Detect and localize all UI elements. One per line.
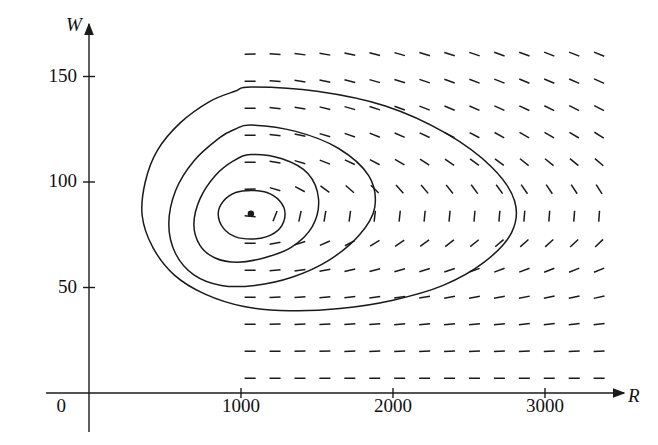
x-axis-label: R [628,385,640,407]
field-dash [444,52,454,55]
field-dash [345,133,355,137]
field-dash [571,185,577,194]
field-dash [295,161,306,164]
field-dash [569,132,578,138]
field-dash [469,79,479,83]
field-dash [270,242,281,244]
field-dash [444,79,454,83]
direction-field [245,52,605,378]
field-dash [444,351,455,352]
field-dash [320,269,331,271]
field-dash [370,160,380,165]
field-dash [295,269,306,271]
plot-canvas [0,0,658,445]
field-dash [395,159,404,165]
field-dash [345,107,356,110]
field-dash [320,160,330,164]
field-dash [369,53,380,56]
field-dash [469,106,479,110]
field-dash [595,239,603,247]
field-dash [399,211,400,222]
field-dash [544,52,554,56]
field-dash [370,240,379,246]
field-dash [519,268,529,272]
field-dash [519,79,529,83]
field-dash [594,324,605,325]
field-dash [420,240,429,246]
field-dash [544,351,555,352]
y-tick-label: 100 [0,170,77,192]
field-dash [599,211,600,222]
field-dash [324,211,326,222]
field-dash [295,80,306,82]
field-dash [494,324,505,325]
field-dash [546,185,552,194]
field-dash [344,80,355,83]
field-dash [444,268,454,271]
field-dash [474,211,475,222]
field-dash [524,211,525,222]
field-dash [544,268,554,272]
field-dash [496,185,502,194]
field-dash [270,108,281,109]
field-dash [594,79,604,83]
field-dash [470,159,479,165]
field-dash [519,106,529,111]
field-dash [421,185,428,193]
orbit-curve [169,125,376,287]
field-dash [344,269,355,271]
field-dash [369,80,380,83]
field-dash [349,211,350,222]
field-dash [594,132,603,138]
field-dash [570,159,578,166]
field-dash [495,159,504,166]
field-dash [419,269,430,272]
field-dash [544,324,555,325]
field-dash [596,185,602,194]
field-dash [569,351,580,352]
field-dash [320,107,331,110]
field-dash [444,324,455,325]
field-dash [469,351,480,352]
equilibrium-point [248,210,254,216]
field-dash [346,186,354,193]
field-dash [444,296,455,298]
field-dash [494,106,504,111]
field-dash [470,240,479,247]
field-dash [320,53,331,55]
field-dash [270,188,281,191]
field-dash [469,52,479,56]
field-dash [569,296,580,298]
field-dash [594,106,604,111]
field-dash [494,52,504,56]
field-dash [394,269,405,272]
field-dash [320,134,331,137]
field-dash [519,296,530,298]
field-dash [344,53,355,55]
field-dash [370,133,380,137]
field-dash [419,324,430,325]
field-dash [544,296,555,298]
field-dash [570,239,578,247]
field-dash [545,239,553,246]
field-dash [419,79,429,83]
x-tick-label: 2000 [348,395,438,417]
field-dash [545,132,554,138]
field-dash [395,133,405,137]
field-dash [521,185,527,194]
field-dash [319,297,330,298]
field-dash [494,79,504,83]
field-dash [344,324,355,325]
field-dash [520,240,528,247]
y-tick-label: 50 [0,276,77,298]
field-dash [445,159,454,165]
x-tick-label: 3000 [500,395,590,417]
field-dash [449,211,450,222]
field-dash [420,159,429,165]
phase-portrait-figure: W R 0 100020003000 50100150 [0,0,658,445]
field-dash [469,296,480,298]
field-dash [594,52,604,56]
field-dash [394,80,405,83]
field-dash [495,133,505,138]
field-dash [545,159,554,166]
